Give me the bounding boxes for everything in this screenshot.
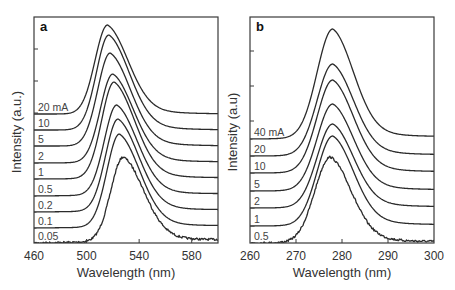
panel-a-x-axis-title: Wavelength (nm) [77,265,176,280]
panel-a-series-labels: 20 mA105210.50.20.10.05 [38,101,68,242]
panel-a: 460500540580 20 mA105210.50.20.10.05 a W… [9,17,218,280]
series-label: 20 mA [38,101,68,113]
spectrum-curve-2 [34,74,218,163]
series-label: 5 [254,178,260,190]
spectrum-curve-0p05 [34,157,218,244]
series-label: 1 [38,166,44,178]
panel-b-letter: b [256,19,264,34]
x-tick-label: 280 [332,249,352,263]
spectrum-curve-0p1 [34,134,218,228]
x-tick-label: 500 [77,249,97,263]
series-label: 40 mA [254,126,284,138]
panel-b-y-axis-title: Intensity (a.u) [225,93,240,172]
series-label: 20 [254,143,266,155]
spectrum-curve-20 [250,64,434,156]
x-tick-label: 300 [424,249,444,263]
panel-b-x-axis-title: Wavelength (nm) [293,265,392,280]
series-label: 10 [254,160,266,172]
x-tick-label: 540 [129,249,149,263]
series-label: 5 [38,133,44,145]
series-label: 1 [254,213,260,225]
panel-b-series-labels: 40 mA20105210.5 [254,126,284,242]
panel-a-curves [34,25,218,244]
x-tick-label: 270 [286,249,306,263]
panel-b-y-ticks [250,51,254,121]
x-tick-label: 580 [182,249,202,263]
panel-a-y-axis-title: Intensity (a.u.) [9,91,24,173]
series-label: 2 [254,195,260,207]
panel-b: 260270280290300 40 mA20105210.5 b Wavele… [225,17,444,280]
spectrum-curve-1 [250,136,434,226]
spectra-chart: 460500540580 20 mA105210.50.20.10.05 a W… [0,0,455,290]
spectrum-curve-0p5 [250,156,434,244]
x-tick-label: 460 [24,249,44,263]
spectrum-curve-40-mA [250,29,434,139]
x-tick-label: 260 [240,249,260,263]
series-label: 2 [38,150,44,162]
spectrum-curve-0p5 [34,105,218,196]
series-label: 0.5 [254,230,269,242]
figure: 460500540580 20 mA105210.50.20.10.05 a W… [0,0,455,290]
series-label: 0.5 [38,183,53,195]
x-tick-label: 290 [378,249,398,263]
panel-a-letter: a [40,19,48,34]
series-label: 0.2 [38,199,53,211]
series-label: 0.1 [38,215,53,227]
series-label: 10 [38,117,50,129]
series-label: 0.05 [38,230,59,242]
spectrum-curve-0p2 [34,119,218,212]
